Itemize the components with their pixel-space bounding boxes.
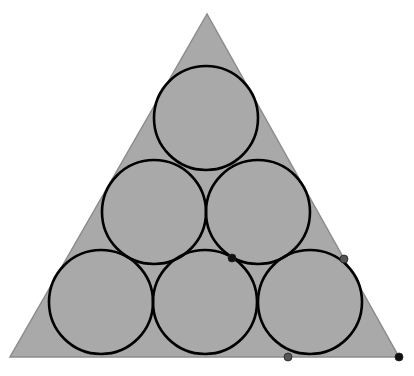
- point-2[interactable]: [340, 255, 348, 263]
- point-3[interactable]: [284, 353, 292, 361]
- point-1[interactable]: [228, 254, 236, 262]
- point-4[interactable]: [395, 353, 403, 361]
- circle-packing-diagram: [0, 0, 414, 376]
